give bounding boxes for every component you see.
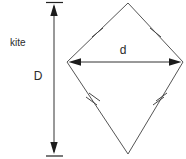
kite-diagram-figure: D d kite [0, 0, 186, 159]
horizontal-dimension-right-arrowhead [169, 58, 182, 65]
lower-left-edge-tick-double [86, 93, 100, 105]
vertical-dimension-group: D [34, 3, 63, 157]
shape-name-label: kite [10, 37, 26, 48]
tick-mark [156, 93, 167, 101]
upper-right-edge-tick-single [150, 28, 161, 37]
kite-outline-group [67, 3, 183, 154]
upper-left-edge-tick-single [92, 28, 103, 37]
lower-right-edge-tick-double [153, 93, 167, 105]
kite-diagram-canvas: D d kite [0, 0, 186, 159]
vertical-dimension-up-arrowhead [50, 4, 57, 16]
vertical-dimension-down-arrowhead [50, 142, 57, 154]
tick-mark [150, 28, 161, 37]
horizontal-dimension-group: d [69, 43, 182, 66]
horizontal-dimension-label: d [120, 43, 127, 57]
tick-mark [92, 28, 103, 37]
kite-outline-path [67, 3, 183, 154]
tick-marks-group [86, 28, 167, 105]
vertical-dimension-label: D [34, 69, 43, 83]
